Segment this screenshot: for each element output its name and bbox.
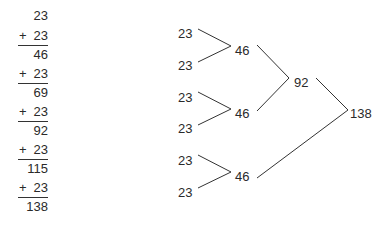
connector	[257, 45, 289, 111]
leaf-node: 23	[178, 122, 192, 136]
root-node: 138	[350, 107, 372, 121]
leaf-node: 23	[178, 27, 192, 41]
level1-node: 46	[235, 107, 249, 121]
connector	[257, 78, 348, 178]
connector	[198, 29, 231, 62]
leaf-node: 23	[178, 154, 192, 168]
level1-node: 46	[235, 44, 249, 58]
connector	[198, 92, 231, 125]
leaf-node: 23	[178, 91, 192, 105]
level2-node: 92	[294, 76, 308, 90]
connector	[198, 155, 231, 188]
level1-node: 46	[235, 170, 249, 184]
leaf-node: 23	[178, 59, 192, 73]
leaf-node: 23	[178, 186, 192, 200]
